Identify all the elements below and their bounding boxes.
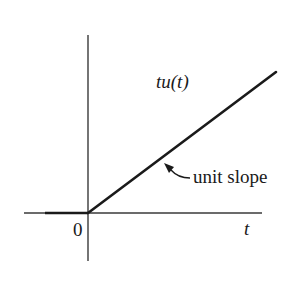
x-axis-label: t — [244, 218, 250, 239]
ramp-function-diagram: tu(t) unit slope 0 t — [0, 0, 293, 285]
curve-label: tu(t) — [156, 71, 189, 93]
annotation-arrow-icon — [164, 163, 190, 178]
origin-label: 0 — [73, 219, 83, 240]
function-ramp-segment — [88, 72, 276, 213]
annotation-label: unit slope — [193, 166, 267, 187]
